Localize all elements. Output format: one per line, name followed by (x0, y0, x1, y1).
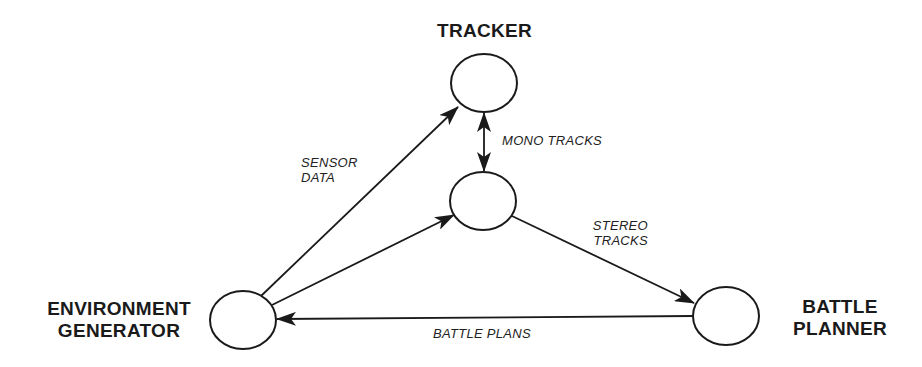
battle-plans-label: BATTLE PLANS (433, 326, 531, 341)
middle-node (450, 172, 516, 230)
battle-planner-label-line1: BATTLE (780, 296, 900, 318)
environment-generator-label: ENVIRONMENT GENERATOR (28, 298, 210, 342)
tracker-node (451, 54, 517, 112)
sensor-data-label-line2: DATA (301, 170, 358, 185)
stereo-tracks-label-line2: TRACKS (588, 233, 648, 248)
sensor-data-label: SENSOR DATA (301, 155, 358, 185)
mono-tracks-label-text: MONO TRACKS (502, 133, 602, 148)
environment-generator-label-line2: GENERATOR (28, 320, 210, 342)
battle-planner-label-line2: PLANNER (780, 318, 900, 340)
battle-planner-node (693, 287, 759, 345)
mono-tracks-label: MONO TRACKS (502, 133, 602, 148)
battle-planner-label: BATTLE PLANNER (780, 296, 900, 340)
battle-plans-label-text: BATTLE PLANS (433, 326, 531, 341)
environment-generator-label-line1: ENVIRONMENT (28, 298, 210, 320)
sensor-data-label-line1: SENSOR (301, 155, 358, 170)
tracker-label: TRACKER (427, 20, 542, 42)
environment-generator-node (210, 291, 276, 349)
sensor-data-edge (261, 107, 458, 296)
battle-plans-edge (277, 316, 693, 319)
stereo-tracks-label-line1: STEREO (588, 218, 648, 233)
tracker-label-text: TRACKER (437, 20, 532, 41)
stereo-tracks-label: STEREO TRACKS (588, 218, 648, 248)
